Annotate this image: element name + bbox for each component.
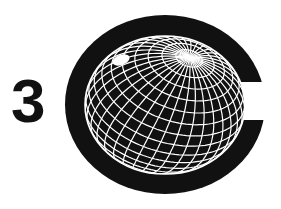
logo: 3 — [0, 0, 281, 209]
globe-icon — [0, 0, 281, 209]
